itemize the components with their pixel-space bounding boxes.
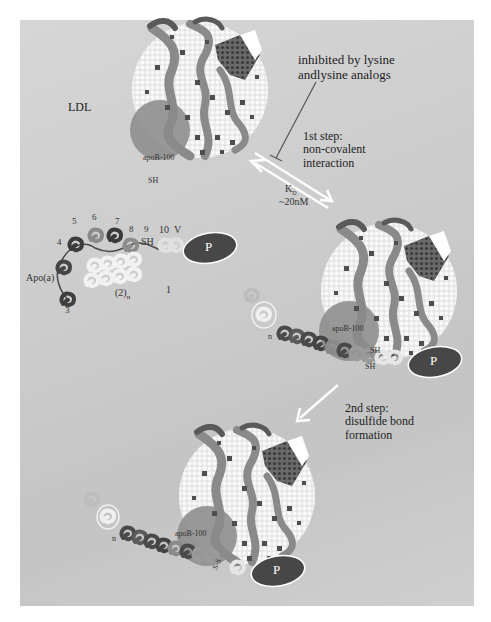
- ldl-particle-top: [130, 19, 268, 160]
- sh-label-top: SH: [148, 177, 158, 186]
- kringle-v-label: V: [174, 224, 181, 235]
- sh-label-middle-ldl: SH: [370, 347, 380, 356]
- apob-label-top: apoB-100: [143, 154, 175, 163]
- kringle-8-label: 8: [129, 224, 134, 234]
- protease-domain-free: P: [205, 239, 212, 255]
- kd-value: ~20nM: [279, 196, 308, 207]
- ldl-apoa-assembly-diagram: [0, 0, 491, 622]
- apob-label-middle: apoB-100: [332, 325, 364, 334]
- kringle-10-label: 10: [159, 224, 169, 235]
- inhibition-note: inhibited by lysine andlysine analogs: [298, 53, 395, 82]
- apob-label-bottom: apoB-100: [175, 530, 207, 539]
- free-sh-label: SH: [141, 236, 154, 247]
- kringle-3-label: 3: [65, 305, 70, 315]
- apoa-label: Apo(a): [26, 272, 54, 283]
- kringle-9-label: 9: [144, 224, 149, 234]
- protease-domain-bottom: P: [273, 562, 280, 578]
- repeat-label: (2)n: [115, 287, 130, 302]
- ldl-label: LDL: [68, 101, 91, 114]
- n-label-bottom: n: [112, 535, 116, 544]
- sh-label-middle-apoa: SH: [365, 363, 375, 372]
- ldl-particle-bottom: [177, 425, 315, 566]
- n-label-middle: n: [268, 333, 272, 342]
- second-step-arrow: [297, 385, 338, 421]
- kringle-5-label: 5: [72, 216, 77, 226]
- step2-label: 2nd step: disulfide bond formation: [345, 402, 414, 442]
- kringle-6-label: 6: [92, 212, 97, 222]
- protease-domain-middle: P: [430, 353, 437, 369]
- kd-label: KD: [285, 183, 297, 197]
- kringle-1-label: 1: [166, 284, 171, 295]
- step1-label: 1st step: non-covalent interaction: [303, 130, 366, 170]
- kringle-4-label: 4: [57, 237, 62, 247]
- kringle-7-label: 7: [115, 216, 120, 226]
- ldl-particle-middle: [319, 220, 457, 361]
